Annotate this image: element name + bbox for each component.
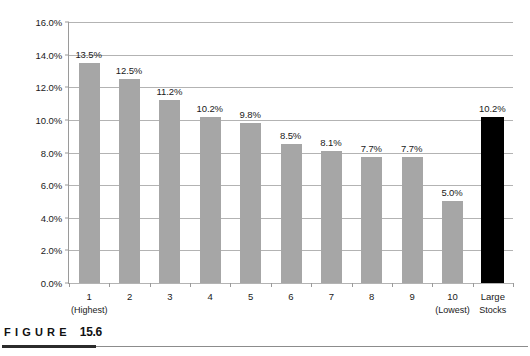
x-axis-tick-label-main: 3: [167, 291, 172, 302]
x-axis-tick-label-main: 1: [87, 291, 92, 302]
bar-value-label: 8.5%: [280, 130, 301, 141]
gridline: [69, 22, 513, 23]
x-axis-tick-label-main: 6: [288, 291, 293, 302]
x-tick-mark: [473, 283, 474, 287]
caption-rule-thick: [2, 345, 96, 348]
x-tick-mark: [69, 283, 70, 287]
x-tick-mark: [513, 283, 514, 287]
bar: 9.8%: [240, 123, 261, 283]
bar-rect: [442, 201, 463, 283]
x-axis-tick-label-main: 10: [447, 291, 458, 302]
x-axis-tick-label: 2: [109, 291, 149, 304]
bar-rect: [361, 157, 382, 283]
bar-value-label: 10.2%: [197, 103, 223, 114]
bar-rect: [402, 157, 423, 283]
y-tick-mark: [65, 152, 69, 153]
bar: 7.7%: [361, 157, 382, 283]
bar: 13.5%: [79, 63, 100, 283]
bar: 10.2%: [481, 117, 504, 283]
bar: 11.2%: [159, 100, 180, 283]
bar-rect: [79, 63, 100, 283]
caption-number: 15.6: [80, 325, 102, 339]
bar: 10.2%: [200, 117, 221, 283]
x-axis-tick-label: 4: [190, 291, 230, 304]
bar: 8.5%: [281, 144, 302, 283]
y-tick-mark: [65, 54, 69, 55]
bar-value-label: 13.5%: [75, 49, 101, 60]
y-tick-mark: [65, 87, 69, 88]
figure-bar-chart: 0.0%2.0%4.0%6.0%8.0%10.0%12.0%14.0%16.0%…: [0, 0, 530, 356]
y-tick-mark: [65, 217, 69, 218]
bar-value-label: 7.7%: [401, 143, 422, 154]
y-tick-mark: [65, 119, 69, 120]
x-axis-tick-label: 7: [311, 291, 351, 304]
y-tick-mark: [65, 185, 69, 186]
x-axis-tick-label: 10(Lowest): [432, 291, 472, 316]
bar: 8.1%: [321, 151, 342, 283]
x-axis-tick-label: 8: [352, 291, 392, 304]
gridline: [69, 55, 513, 56]
y-axis-tick-label: 6.0%: [41, 180, 62, 191]
x-tick-mark: [432, 283, 433, 287]
x-tick-mark: [352, 283, 353, 287]
bar-rect: [200, 117, 221, 283]
bar: 12.5%: [119, 79, 140, 283]
bar-rect: [281, 144, 302, 283]
bar-value-label: 5.0%: [441, 187, 462, 198]
x-tick-mark: [230, 283, 231, 287]
bar-value-label: 7.7%: [361, 143, 382, 154]
caption-label: FIGURE: [4, 326, 71, 338]
y-tick-mark: [65, 22, 69, 23]
x-axis-tick-label-main: 8: [369, 291, 374, 302]
y-axis-tick-label: 2.0%: [41, 245, 62, 256]
x-axis-tick-label: 6: [271, 291, 311, 304]
x-axis-tick-label-line1: Large: [481, 291, 505, 302]
bar-value-label: 12.5%: [116, 65, 142, 76]
plot-area: 0.0%2.0%4.0%6.0%8.0%10.0%12.0%14.0%16.0%…: [69, 22, 513, 283]
x-axis-tick-label-main: 9: [409, 291, 414, 302]
x-tick-mark: [150, 283, 151, 287]
bar-rect: [159, 100, 180, 283]
y-axis-tick-label: 12.0%: [36, 82, 62, 93]
bar-rect: [119, 79, 140, 283]
x-tick-mark: [311, 283, 312, 287]
x-axis-tick-label: 9: [392, 291, 432, 304]
x-axis-tick-label-main: 2: [127, 291, 132, 302]
x-axis-tick-label: 3: [150, 291, 190, 304]
bar-rect: [481, 117, 504, 283]
bar-value-label: 10.2%: [479, 103, 505, 114]
y-tick-mark: [65, 250, 69, 251]
x-axis-tick-label-main: 7: [329, 291, 334, 302]
bar-rect: [240, 123, 261, 283]
x-tick-mark: [271, 283, 272, 287]
bar: 7.7%: [402, 157, 423, 283]
y-axis-tick-label: 8.0%: [41, 147, 62, 158]
figure-caption: FIGURE 15.6: [4, 325, 102, 339]
bar-rect: [321, 151, 342, 283]
caption-rule-thin: [96, 346, 528, 347]
x-axis-tick-label: 1(Highest): [69, 291, 109, 316]
x-tick-mark: [109, 283, 110, 287]
y-axis-tick-label: 0.0%: [41, 278, 62, 289]
bar: 5.0%: [442, 201, 463, 283]
x-axis-tick-label-line2: Stocks: [473, 304, 513, 317]
x-tick-mark: [392, 283, 393, 287]
y-axis-tick-label: 14.0%: [36, 49, 62, 60]
x-tick-mark: [190, 283, 191, 287]
bar-value-label: 9.8%: [240, 109, 261, 120]
gridline: [69, 283, 513, 284]
x-axis-tick-label: LargeStocks: [473, 291, 513, 316]
y-axis-tick-label: 16.0%: [36, 17, 62, 28]
y-axis-tick-label: 10.0%: [36, 114, 62, 125]
bar-value-label: 8.1%: [320, 137, 341, 148]
x-axis-tick-label: 5: [230, 291, 270, 304]
x-axis-tick-sublabel: (Lowest): [432, 304, 472, 317]
x-axis-tick-label-main: 4: [208, 291, 213, 302]
bar-value-label: 11.2%: [157, 86, 183, 97]
x-axis-tick-label-main: 5: [248, 291, 253, 302]
x-axis-tick-sublabel: (Highest): [69, 304, 109, 317]
y-axis-tick-label: 4.0%: [41, 212, 62, 223]
